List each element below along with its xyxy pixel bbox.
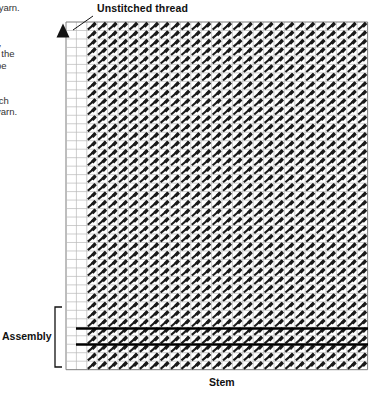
diagram-canvas: yarn.) t,t thebe tchyarn. Unstitched thr… (0, 0, 377, 394)
diagram-artwork (0, 0, 377, 394)
assembly-bracket (55, 307, 62, 367)
